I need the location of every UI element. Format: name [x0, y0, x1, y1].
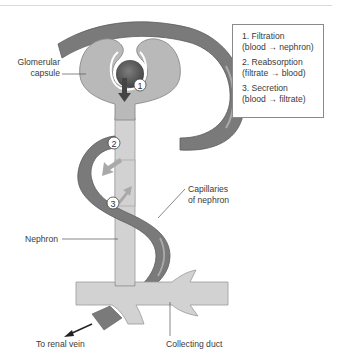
legend-detail: (blood → filtrate) [242, 94, 323, 105]
legend-title: 3. Secretion [242, 83, 323, 94]
label-capsule: capsule [10, 68, 60, 79]
legend-box: 1. Filtration (blood → nephron) 2. Reabs… [232, 24, 324, 118]
label-capillaries-line2: of nephron [188, 195, 229, 206]
renal-vein-arrow [64, 324, 92, 337]
legend-title: 1. Filtration [242, 31, 323, 42]
label-collecting-duct: Collecting duct [166, 339, 222, 350]
legend-item-reabsorption: 2. Reabsorption (filtrate → blood) [242, 57, 323, 79]
label-glomerular: Glomerular [10, 57, 60, 68]
label-glomerular-capsule: Glomerular capsule [10, 57, 60, 79]
marker-3: 3 [107, 197, 119, 209]
marker-1: 1 [134, 79, 146, 91]
marker-2: 2 [108, 137, 120, 149]
label-nephron: Nephron [25, 234, 58, 245]
svg-text:3: 3 [110, 199, 115, 209]
legend-item-secretion: 3. Secretion (blood → filtrate) [242, 83, 323, 105]
legend-title: 2. Reabsorption [242, 57, 323, 68]
svg-text:2: 2 [111, 139, 116, 149]
legend-detail: (blood → nephron) [242, 42, 323, 53]
label-renal-vein: To renal vein [36, 339, 85, 350]
svg-text:1: 1 [137, 81, 142, 91]
label-capillaries-line1: Capillaries [188, 184, 229, 195]
capillaries-leader-line [158, 189, 185, 218]
legend-item-filtration: 1. Filtration (blood → nephron) [242, 31, 323, 53]
legend-detail: (filtrate → blood) [242, 68, 323, 79]
label-capillaries: Capillaries of nephron [188, 184, 229, 206]
